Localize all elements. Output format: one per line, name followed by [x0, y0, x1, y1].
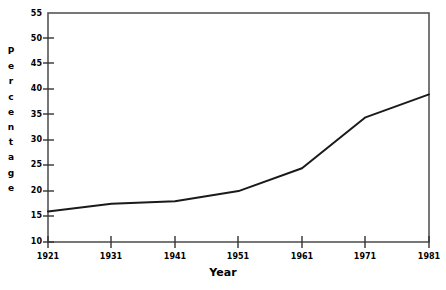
x-tick-label-1941: 1941: [155, 252, 195, 261]
plot-area: [0, 0, 446, 290]
x-tick-label-1921: 1921: [28, 252, 68, 261]
x-axis-title: Year: [0, 266, 446, 279]
x-tick-label-1971: 1971: [345, 252, 385, 261]
x-tick-label-1951: 1951: [218, 252, 258, 261]
x-tick-label-1931: 1931: [91, 252, 131, 261]
x-tick-label-1981: 1981: [409, 252, 446, 261]
line-chart: P e r c e n t a g e 55 50 45 40 35 30 25…: [0, 0, 446, 290]
data-series-line: [48, 94, 429, 211]
axis-frame: [48, 13, 429, 242]
x-tick-label-1961: 1961: [282, 252, 322, 261]
